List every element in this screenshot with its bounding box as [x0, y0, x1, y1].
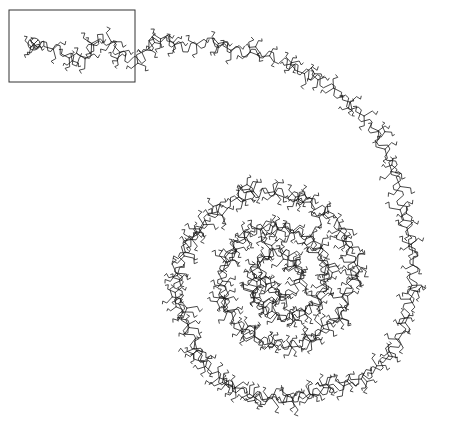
polymer-chain: [24, 27, 426, 416]
polymer-chain-figure: [0, 0, 452, 424]
chain-backbone: [33, 34, 418, 403]
clipped-caption: · · · · ·: [295, 417, 445, 424]
pinwheel-motifs: [24, 27, 426, 416]
